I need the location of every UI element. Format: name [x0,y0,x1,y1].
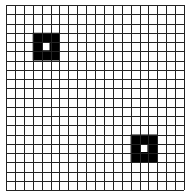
grid-diagram [0,0,187,196]
marker-top-left [33,33,60,61]
marker-bottom-right [131,135,158,163]
